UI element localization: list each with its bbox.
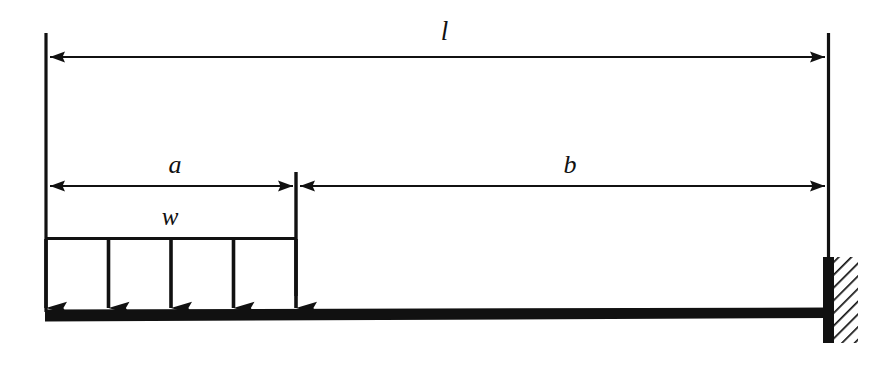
label-total-length: l (0, 18, 889, 45)
beam (45, 308, 829, 322)
label-segment-b: b (505, 152, 635, 178)
wall-hatching (834, 257, 858, 343)
label-segment-a: a (120, 152, 230, 178)
beam-diagram-canvas (0, 0, 889, 381)
label-distributed-load: w (115, 204, 225, 229)
fixed-support-wall (823, 257, 834, 343)
beam-diagram: l a b w (0, 0, 889, 381)
distributed-load-arrows (46, 239, 296, 308)
